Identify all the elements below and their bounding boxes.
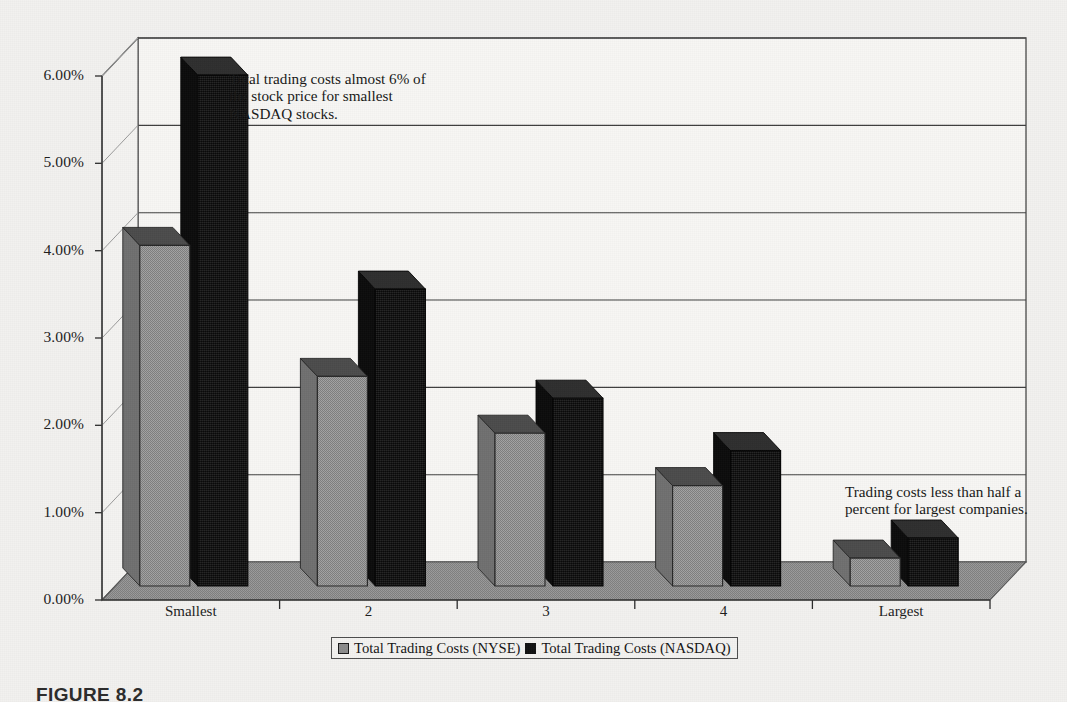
legend-entry-nyse: Total Trading Costs (NYSE)	[338, 640, 520, 657]
bar-nyse-smallest-front	[140, 245, 190, 586]
x-axis-tick-4: 4	[664, 603, 784, 620]
x-axis-tick-3: 3	[486, 603, 606, 620]
bar-nyse-2-front	[317, 376, 367, 586]
bar-nyse-4-front	[673, 486, 723, 586]
y-axis-tick-1: 1.00%	[0, 503, 84, 521]
bar-nasdaq-3-front	[553, 398, 603, 586]
y-axis-tick-4: 4.00%	[0, 241, 84, 259]
trading-costs-3d-bar-chart: 0.00%1.00%2.00%3.00%4.00%5.00%6.00% Smal…	[0, 0, 1067, 702]
x-axis-tick-largest: Largest	[841, 603, 961, 620]
bar-nyse-smallest-side	[123, 227, 140, 586]
bar-nasdaq-largest-front	[908, 538, 958, 586]
bar-nasdaq-smallest-front	[198, 75, 248, 586]
legend-entry-nasdaq: Total Trading Costs (NASDAQ)	[525, 640, 730, 657]
bar-nasdaq-2-front	[375, 289, 425, 586]
chart-canvas	[0, 0, 1067, 702]
legend-label-nyse: Total Trading Costs (NYSE)	[354, 640, 520, 657]
y-axis-tick-2: 2.00%	[0, 415, 84, 433]
y-axis-tick-6: 6.00%	[0, 66, 84, 84]
figure-caption: FIGURE 8.2	[36, 684, 143, 702]
black-square-icon	[525, 643, 536, 654]
bar-nyse-2-side	[300, 358, 317, 586]
bar-nyse-largest-front	[850, 558, 900, 586]
y-axis-tick-3: 3.00%	[0, 328, 84, 346]
plot-svg	[0, 0, 1067, 702]
bar-nyse-3-front	[495, 433, 545, 586]
annotation-smallest: Total trading costs almost 6% of the sto…	[229, 70, 444, 122]
x-axis-tick-2: 2	[308, 603, 428, 620]
gray-square-icon	[338, 643, 349, 654]
legend-label-nasdaq: Total Trading Costs (NASDAQ)	[541, 640, 730, 657]
annotation-largest: Trading costs less than half a percent f…	[845, 483, 1035, 518]
y-axis-tick-5: 5.00%	[0, 153, 84, 171]
y-axis-tick-0: 0.00%	[0, 590, 84, 608]
bar-nasdaq-4-front	[731, 451, 781, 586]
bar-nyse-3-side	[478, 415, 495, 586]
x-axis-tick-smallest: Smallest	[131, 603, 251, 620]
bar-nyse-4-side	[656, 468, 673, 586]
chart-scene	[95, 38, 1026, 609]
chart-legend: Total Trading Costs (NYSE) Total Trading…	[331, 637, 738, 659]
